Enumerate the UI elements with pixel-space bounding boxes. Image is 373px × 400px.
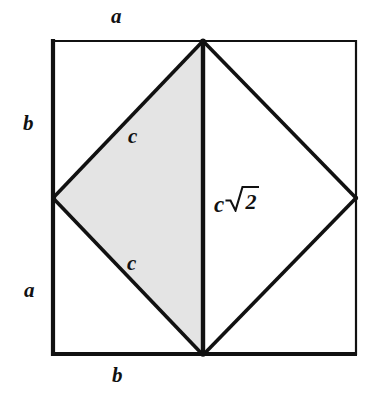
square-root-icon: 2 — [225, 184, 259, 216]
label-upper-hypotenuse-c: c — [128, 126, 137, 147]
diamond-edge-bottom-right — [203, 198, 356, 355]
shaded-region — [53, 41, 203, 355]
label-diagonal-c-sqrt-2: c 2 — [214, 184, 259, 216]
geometry-figure: a b b a c c c 2 — [0, 0, 373, 400]
label-top-side-a: a — [111, 6, 122, 27]
label-bottom-side-b: b — [112, 365, 123, 386]
diamond-edge-top-right — [203, 41, 356, 198]
label-diagonal-c-part: c — [214, 193, 224, 216]
vertex-dot-bottom — [200, 351, 206, 357]
label-left-lower-side-a: a — [24, 280, 35, 301]
geometry-diagram — [0, 0, 373, 400]
vertex-dot-right — [354, 196, 358, 200]
vertex-dot-top — [200, 38, 205, 43]
radicand-value: 2 — [245, 189, 257, 212]
label-lower-hypotenuse-c: c — [127, 253, 136, 274]
label-left-upper-side-b: b — [23, 113, 34, 134]
vertex-dot-left — [52, 196, 56, 200]
